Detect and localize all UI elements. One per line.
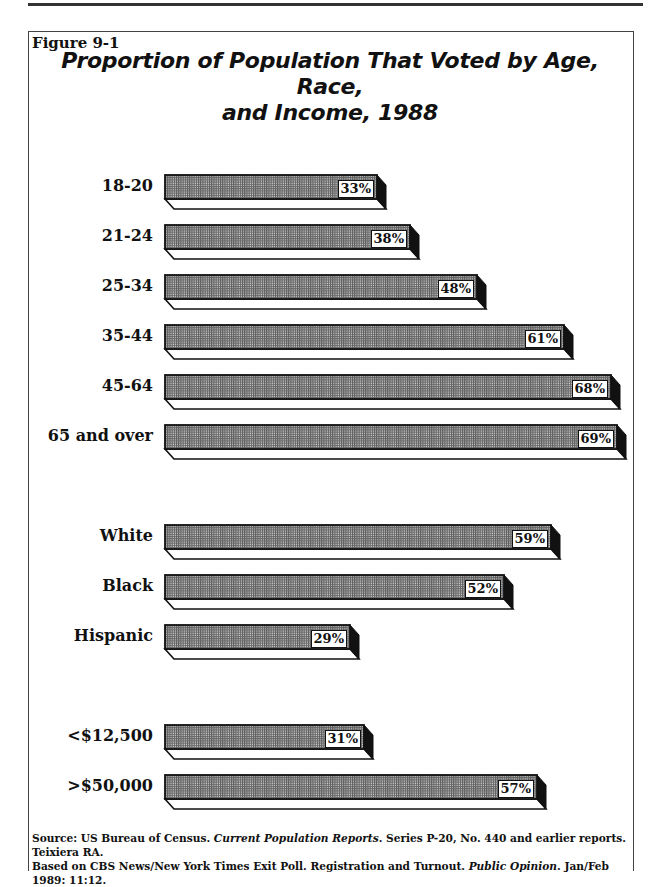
category-label: <$12,500 [67, 723, 153, 749]
bar-row: 35-4461% [0, 323, 658, 363]
value-label: 69% [578, 430, 614, 448]
bar: 33% [165, 175, 387, 211]
bar: 59% [165, 525, 561, 561]
value-label: 48% [438, 280, 474, 298]
bar: 48% [165, 275, 487, 311]
value-label: 52% [465, 580, 501, 598]
bar-row: White59% [0, 523, 658, 563]
bar: 61% [165, 325, 574, 361]
value-label: 68% [572, 380, 608, 398]
bar: 38% [165, 225, 420, 261]
chart-title: Proportion of Population That Voted by A… [30, 48, 630, 126]
bar-row: 65 and over69% [0, 423, 658, 463]
category-label: Hispanic [74, 623, 153, 649]
bar-row: 21-2438% [0, 223, 658, 263]
chart-title-line2: and Income, 1988 [30, 100, 630, 126]
bar-row: Black52% [0, 573, 658, 613]
bar: 31% [165, 725, 374, 761]
value-label: 33% [338, 180, 374, 198]
category-label: Black [102, 573, 153, 599]
bar-row: <$12,50031% [0, 723, 658, 763]
bar-row: 45-6468% [0, 373, 658, 413]
source-text: Based on CBS News/New York Times Exit Po… [32, 860, 469, 872]
value-label: 61% [525, 330, 561, 348]
category-label: 25-34 [102, 273, 153, 299]
source-publication: Current Population Reports [214, 832, 379, 844]
value-label: 57% [498, 780, 534, 798]
bar-row: 25-3448% [0, 273, 658, 313]
category-label: 18-20 [102, 173, 153, 199]
bar-row: Hispanic29% [0, 623, 658, 663]
value-label: 29% [311, 630, 347, 648]
source-text: Source: US Bureau of Census. [32, 832, 214, 844]
bar-row: 18-2033% [0, 173, 658, 213]
category-label: 45-64 [102, 373, 153, 399]
source-publication: Public Opinion [469, 860, 557, 872]
category-label: 35-44 [102, 323, 153, 349]
value-label: 59% [512, 530, 548, 548]
category-label: >$50,000 [67, 773, 153, 799]
bar-row: >$50,00057% [0, 773, 658, 813]
bar: 52% [165, 575, 514, 611]
bar: 68% [165, 375, 621, 411]
page-top-rule [28, 3, 643, 6]
bar: 57% [165, 775, 547, 811]
chart-title-line1: Proportion of Population That Voted by A… [30, 48, 630, 100]
value-label: 38% [371, 230, 407, 248]
value-label: 31% [325, 730, 361, 748]
category-label: White [100, 523, 153, 549]
bar: 69% [165, 425, 627, 461]
bar: 29% [165, 625, 360, 661]
category-label: 65 and over [48, 423, 153, 449]
category-label: 21-24 [102, 223, 153, 249]
source-note: Source: US Bureau of Census. Current Pop… [32, 831, 632, 887]
